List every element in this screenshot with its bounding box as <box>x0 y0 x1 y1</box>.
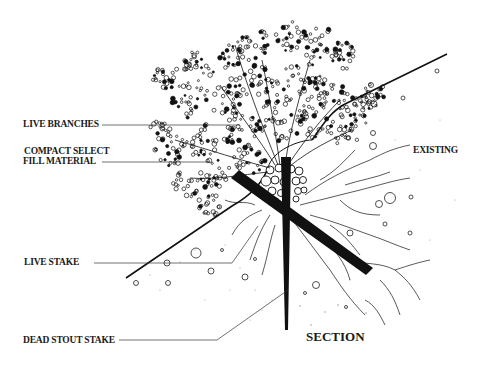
label-existing: EXISTING <box>413 145 458 156</box>
label-dead-stout-stake: DEAD STOUT STAKE <box>23 335 115 346</box>
label-fill-material-line2: FILL MATERIAL <box>23 156 96 167</box>
section-drawing <box>0 0 477 369</box>
section-title: SECTION <box>306 331 365 342</box>
foliage <box>149 21 386 217</box>
dead-stout-stake <box>281 157 291 330</box>
label-live-branches: LIVE BRANCHES <box>23 119 99 130</box>
leader-lines <box>94 125 288 340</box>
live-stake <box>231 170 373 275</box>
label-live-stake: LIVE STAKE <box>24 257 79 268</box>
